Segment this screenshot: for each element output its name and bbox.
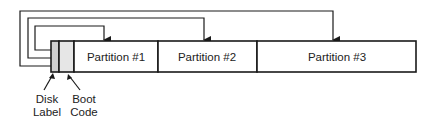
partition-1-label: Partition #1 [87, 51, 145, 63]
partition-3-label: Partition #3 [308, 51, 366, 63]
caption-arrows [44, 73, 80, 90]
boot-code-caption-line2: Code [70, 106, 98, 118]
boot-code-segment [59, 41, 74, 72]
disk-label-segment [51, 41, 59, 72]
disk-label-caption-line2: Label [33, 106, 61, 118]
partition-2-label: Partition #2 [178, 51, 236, 63]
disk-label-caption-line1: Disk [36, 93, 59, 105]
boot-code-arrow [70, 77, 80, 90]
partition-diagram: Partition #1 Partition #2 Partition #3 D… [0, 0, 435, 127]
boot-code-caption-line1: Boot [72, 93, 96, 105]
